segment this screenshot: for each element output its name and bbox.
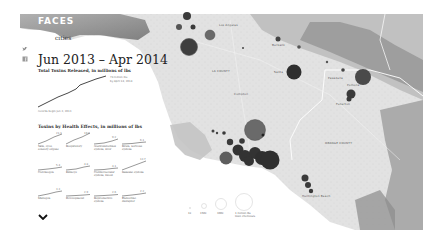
legend-caption: toxic chemicals — [235, 215, 255, 218]
health-effect-immune[interactable]: 12.7 Immune system — [122, 158, 148, 184]
health-effect-label: Mutagen — [38, 197, 64, 200]
map-label: Pomona — [347, 83, 359, 87]
health-effect-label: Carcinogen — [38, 171, 64, 174]
map-label-county: ORANGE COUNTY — [325, 141, 352, 145]
legend-label: 150k — [200, 212, 206, 215]
date-range-title: Jun 2013 – Apr 2014 — [38, 52, 168, 67]
health-effect-label: Endocrine disruptor — [122, 197, 148, 203]
legend-label: 1k — [188, 212, 191, 215]
map-label: Santa — [274, 70, 283, 74]
total-end-date: by April 14, 2014 — [110, 80, 132, 83]
total-start-note: records begin Jun 3, 2013 — [38, 110, 71, 113]
legend-circle-1m — [236, 194, 253, 211]
info-panel: FACES cities Jun 2013 – Apr 2014 Total T… — [0, 0, 150, 244]
health-effect-label: Development — [66, 197, 92, 200]
health-effect-label: Immune system — [122, 171, 148, 174]
health-effect-gastro[interactable]: 9.2 Gastrointestinal system, liver — [94, 132, 120, 158]
health-effect-skin[interactable]: 21.3 Skin, eyes, sensory organs — [38, 132, 64, 158]
health-effect-carcinogen[interactable]: 5.4 Carcinogen — [38, 158, 64, 184]
chevron-down-icon[interactable] — [38, 214, 48, 220]
total-toxins-title: Total Toxins Released, in millions of lb… — [38, 68, 131, 73]
health-effect-label: Kidneys — [66, 171, 92, 174]
bubble-size-legend: 1k 150k 300k 1 million lbs toxic chemica… — [185, 193, 285, 223]
health-effect-label: Gastrointestinal system, liver — [94, 145, 120, 151]
map-label: Pasadena — [328, 76, 343, 80]
map-label: Fullerton — [336, 102, 350, 106]
legend-label: 300k — [217, 212, 223, 215]
legend-circle-150k — [202, 204, 207, 209]
health-effect-kidneys[interactable]: 4.8 Kidneys — [66, 158, 92, 184]
map-label: Huntington Beach — [302, 194, 330, 198]
health-effect-reproductive[interactable]: 2.6 Reproductive system — [94, 184, 120, 210]
total-end-note: 74 million lbs — [110, 76, 127, 79]
health-effect-development[interactable]: 2.9 Development — [66, 184, 92, 210]
health-effect-label: Respiratory — [66, 145, 92, 148]
health-effects-title: Toxins by Health Effects, in millions of… — [38, 124, 142, 129]
facebook-icon[interactable] — [22, 56, 28, 62]
brand-logo[interactable]: FACES — [38, 16, 74, 26]
health-effect-label: Cardiovascular system, blood — [94, 171, 120, 177]
twitter-icon[interactable] — [22, 46, 28, 52]
health-effect-endocrine[interactable]: 2.2 Endocrine disruptor — [122, 184, 148, 210]
health-effect-label: Reproductive system — [94, 197, 120, 203]
brand-subtitle: cities — [55, 34, 71, 41]
health-effect-label: Brain, nervous system — [122, 145, 148, 151]
health-effect-brain[interactable]: 6.1 Brain, nervous system — [122, 132, 148, 158]
health-effect-cardio[interactable]: 4.1 Cardiovascular system, blood — [94, 158, 120, 184]
health-effect-respiratory[interactable]: 19.8 Respiratory — [66, 132, 92, 158]
legend-circle-1k — [189, 207, 190, 208]
map-label: Burbank — [272, 43, 285, 47]
health-effect-label: Skin, eyes, sensory organs — [38, 145, 64, 151]
map-label: Compton — [234, 92, 248, 96]
legend-circle-300k — [216, 199, 227, 210]
total-toxins-line-chart[interactable] — [38, 74, 108, 110]
map-label-county: LA COUNTY — [212, 69, 230, 73]
map-label: Los Angeles — [219, 23, 238, 27]
health-effect-mutagen[interactable]: 3.3 Mutagen — [38, 184, 64, 210]
